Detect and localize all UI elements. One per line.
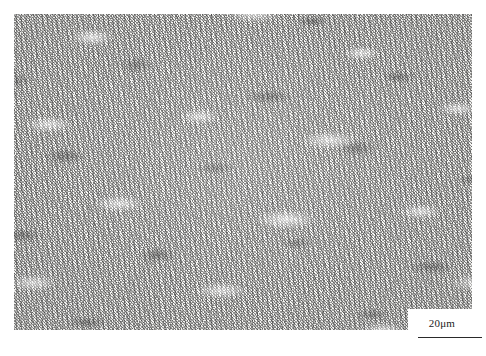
micrograph-image <box>14 14 472 330</box>
microstructure-grain-layer <box>14 14 472 330</box>
figure-root: 20μm <box>0 0 486 356</box>
microstructure-lath-layer <box>14 14 472 330</box>
scale-bar-rule <box>418 337 482 338</box>
microstructure-ferrite-layer <box>14 14 472 330</box>
microstructure-colony-layer <box>14 14 472 330</box>
scale-bar-inset: 20μm <box>408 309 486 356</box>
illumination-vignette <box>14 14 472 330</box>
scale-bar-label: 20μm <box>408 317 476 329</box>
